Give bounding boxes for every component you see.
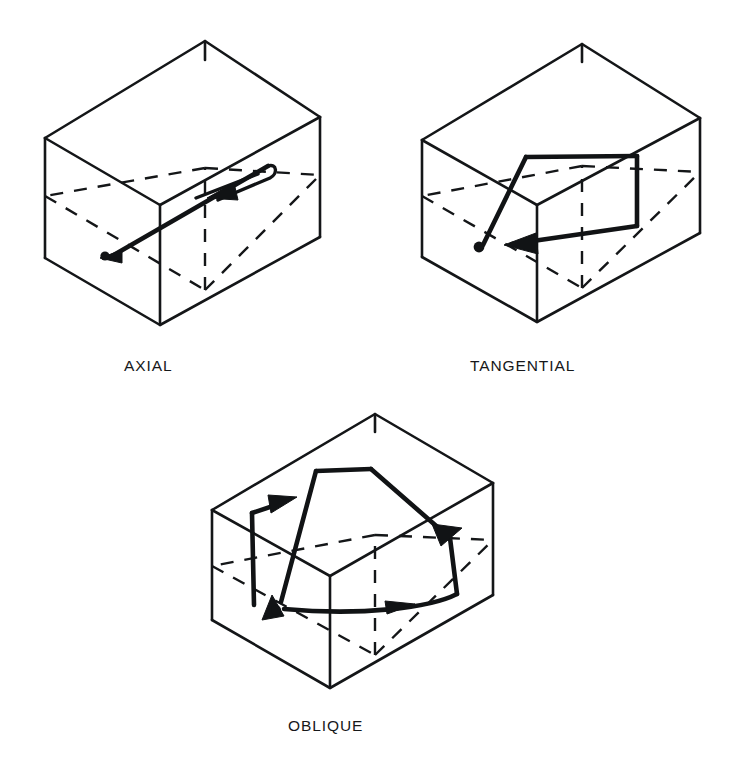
panel-oblique: OBLIQUE [212,414,493,734]
axial-caption: AXIAL [124,357,172,374]
oblique-source-dot [271,605,281,615]
tangential-flow-top [526,156,637,157]
tangential-edge-bottom-front [422,233,700,322]
oblique-edge-top-back [212,414,493,510]
panel-axial: AXIAL [45,41,320,374]
tangential-flow-left-rise [483,157,526,245]
tangential-source-dot [474,242,485,253]
axial-source-dot [100,251,109,260]
figure-root: AXIAL [0,0,739,760]
axial-flow-loop [100,165,275,263]
axial-edge-bottom-front [45,237,320,325]
tangential-hidden-edge-upper-left [422,166,582,196]
flow-regime-diagram: AXIAL [0,0,739,760]
tangential-edge-top-back [422,44,700,140]
axial-hidden-edge-upper-left [45,168,205,196]
axial-box-solid-edges [45,41,320,325]
oblique-flow-right-drop [450,538,457,594]
axial-hidden-edge-left-floor [45,196,205,290]
tangential-arrow-head [504,233,538,254]
tangential-caption: TANGENTIAL [470,357,575,374]
oblique-flow-loop [252,469,462,620]
oblique-hidden-edge-right-floor [375,540,493,655]
tangential-box-hidden-edges [422,166,700,288]
tangential-edge-top-front [422,118,700,205]
tangential-box-solid-edges [422,44,700,322]
oblique-caption: OBLIQUE [288,717,363,734]
oblique-flow-upper-left-diagonal [281,471,316,602]
oblique-arrow-head-top-left [268,495,297,513]
axial-edge-top-front [45,117,320,205]
oblique-flow-bottom-curve [284,594,457,612]
axial-box-hidden-edges [45,168,320,290]
panel-tangential: TANGENTIAL [422,44,700,374]
oblique-flow-left-vertical [252,513,254,605]
oblique-flow-upper-back-top [316,469,371,471]
oblique-edge-bottom-front [212,595,493,688]
axial-edge-top-back [45,41,320,138]
oblique-arrow-head-right [432,524,462,546]
